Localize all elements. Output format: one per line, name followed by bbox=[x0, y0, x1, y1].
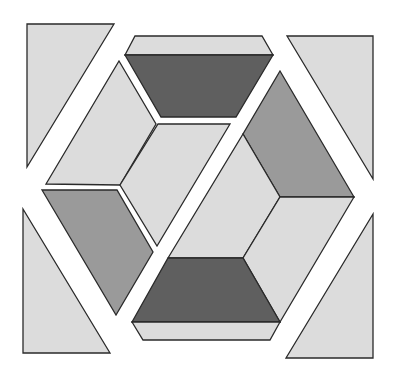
bottom-light-strip bbox=[132, 322, 280, 340]
top-light-strip bbox=[125, 36, 273, 55]
top-dark-trapezoid bbox=[125, 55, 273, 117]
tile-arrangement-canvas bbox=[0, 0, 394, 374]
